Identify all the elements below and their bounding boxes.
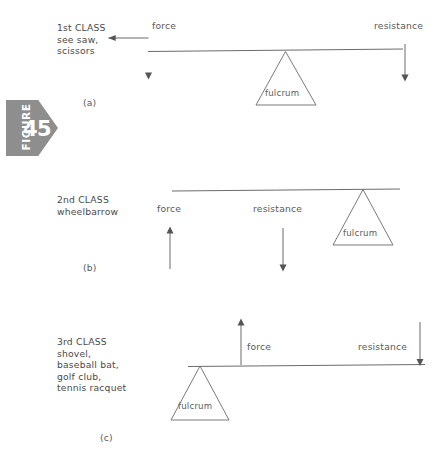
- panel-b-force-label: force: [157, 203, 181, 215]
- panel-a-lever-bar: [148, 49, 403, 52]
- panel-b-resistance-label: resistance: [253, 203, 302, 215]
- lever-classes-figure: FIGURE 45 1st CLASS see saw, scissors fo…: [0, 0, 442, 455]
- panel-b-resistance-arrowhead: [280, 265, 287, 272]
- panel-c-resistance-arrowhead: [417, 359, 424, 366]
- panel-c-lever-bar: [188, 365, 425, 367]
- panel-c-fulcrum-label: fulcrum: [178, 401, 212, 413]
- figure-tag-number: 45: [23, 117, 51, 141]
- panel-a-diagram: [109, 38, 409, 105]
- panel-a-resistance-arrowhead: [401, 75, 408, 82]
- panel-b-fulcrum-label: fulcrum: [343, 228, 377, 240]
- panel-a-resistance-label: resistance: [374, 20, 423, 32]
- panel-b-caption: (b): [83, 262, 97, 274]
- panel-c-force-arrowhead: [238, 319, 245, 326]
- panel-c-caption: (c): [100, 432, 113, 444]
- panel-b-force-arrowhead: [167, 227, 174, 234]
- panel-a-caption: (a): [83, 97, 96, 109]
- panel-c-class-label: 3rd CLASS shovel, baseball bat, golf clu…: [57, 336, 126, 394]
- panel-a-fulcrum-label: fulcrum: [265, 88, 299, 100]
- panel-c-resistance-label: resistance: [358, 341, 407, 353]
- panel-b-lever-bar: [172, 189, 400, 191]
- panel-c-force-label: force: [247, 341, 271, 353]
- panel-a-class-label: 1st CLASS see saw, scissors: [57, 22, 106, 57]
- panel-b-class-label: 2nd CLASS wheelbarrow: [57, 194, 118, 217]
- figure-number-tag: FIGURE 45: [6, 100, 58, 156]
- panel-a-force-label: force: [152, 20, 176, 32]
- panel-a-force-arrowhead: [145, 73, 152, 80]
